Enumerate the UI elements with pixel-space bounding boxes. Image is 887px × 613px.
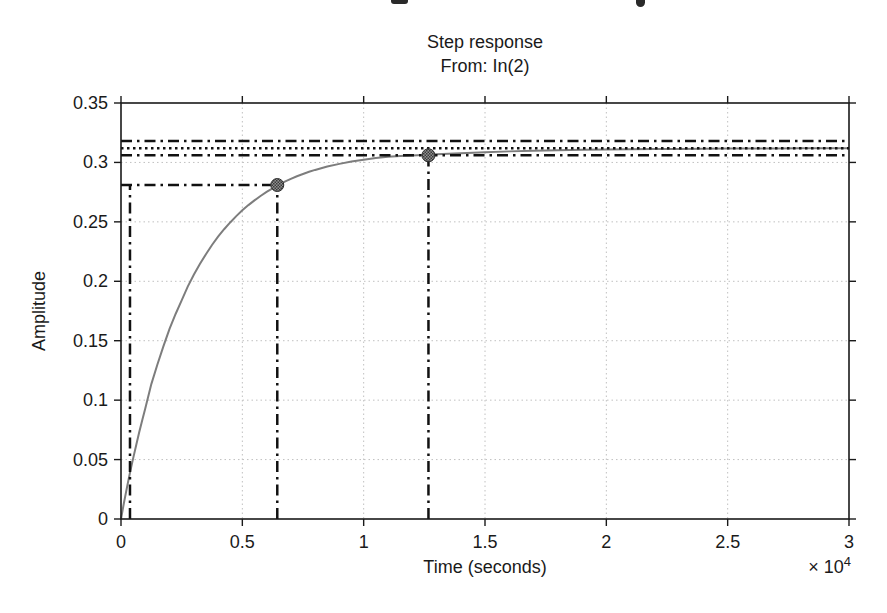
y-tick-label: 0.3	[83, 152, 108, 172]
y-tick-label: 0.15	[73, 331, 108, 351]
x-axis-multiplier: × 104	[808, 554, 851, 578]
rise-time-marker	[271, 179, 284, 192]
y-axis-label: Amplitude	[29, 271, 50, 351]
x-tick-label: 1.5	[472, 532, 497, 552]
step-response-figure: Step response From: In(2) 00.511.522.530…	[0, 0, 887, 613]
x-tick-label: 1	[359, 532, 369, 552]
x-tick-label: 2	[601, 532, 611, 552]
y-tick-label: 0.25	[73, 212, 108, 232]
y-tick-label: 0.35	[73, 93, 108, 113]
y-tick-label: 0.1	[83, 390, 108, 410]
settling-time-marker	[422, 149, 435, 162]
x-axis-multiplier-base: × 10	[808, 557, 844, 577]
x-tick-label: 0.5	[230, 532, 255, 552]
y-tick-label: 0.2	[83, 271, 108, 291]
y-tick-label: 0.05	[73, 450, 108, 470]
x-tick-label: 3	[844, 532, 854, 552]
x-axis-label: Time (seconds)	[121, 557, 849, 578]
y-tick-label: 0	[98, 509, 108, 529]
x-axis-multiplier-exponent: 4	[844, 554, 851, 569]
x-tick-label: 0	[116, 532, 126, 552]
plot-canvas: 00.511.522.5300.050.10.150.20.250.30.35	[0, 0, 887, 613]
x-tick-label: 2.5	[715, 532, 740, 552]
